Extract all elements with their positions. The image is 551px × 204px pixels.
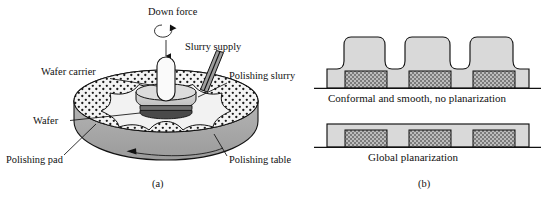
buried-feature	[345, 130, 387, 147]
buried-feature	[409, 130, 451, 147]
planarized-profile: Global planarization	[314, 124, 541, 163]
figure-root: Down force	[0, 0, 551, 204]
rotation-arrow-icon	[155, 25, 177, 38]
label-slurry-supply: Slurry supply	[185, 41, 242, 52]
buried-feature	[345, 71, 387, 88]
conformal-profile: Conformal and smooth, no planarization	[314, 37, 541, 104]
label-wafer: Wafer	[33, 115, 59, 126]
buried-feature	[473, 130, 515, 147]
label-polishing-pad: Polishing pad	[6, 154, 64, 165]
panel-a: Down force	[6, 6, 296, 190]
panel-a-caption: (a)	[152, 178, 164, 190]
label-down-force: Down force	[148, 6, 198, 17]
cmp-figure: Down force	[0, 0, 551, 204]
buried-feature	[473, 71, 515, 88]
planarized-caption: Global planarization	[368, 151, 459, 163]
label-polishing-slurry: Polishing slurry	[229, 70, 296, 81]
buried-feature	[409, 71, 451, 88]
carrier-spindle	[157, 57, 175, 101]
label-polishing-table: Polishing table	[229, 154, 291, 165]
wafer-disc	[140, 106, 192, 119]
panel-b: Conformal and smooth, no planarization G…	[314, 37, 541, 190]
conformal-caption: Conformal and smooth, no planarization	[328, 92, 507, 104]
panel-b-caption: (b)	[418, 178, 430, 190]
label-wafer-carrier: Wafer carrier	[41, 66, 96, 77]
